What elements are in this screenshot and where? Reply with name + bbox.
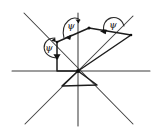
figure-container: ψ ψ ψ Equiang — [0, 0, 158, 133]
psi-label-upper-vertical: ψ — [67, 20, 75, 31]
spiral-diagram-svg: ψ ψ ψ — [0, 0, 158, 133]
spiral-outer-path — [57, 28, 131, 71]
vertex-upper-left — [56, 41, 59, 44]
path-direction-arrows — [53, 29, 106, 60]
direction-arrow-apex-to-left — [65, 35, 72, 40]
psi-label-upper-right-diagonal: ψ — [109, 19, 117, 30]
psi-label-left-vertical: ψ — [45, 42, 53, 53]
direction-arrow-left-vertical-down — [53, 54, 60, 60]
vertex-right — [130, 34, 133, 37]
spiral-inner-path — [62, 71, 97, 86]
center-node — [76, 69, 80, 73]
vertex-apex — [88, 27, 91, 30]
